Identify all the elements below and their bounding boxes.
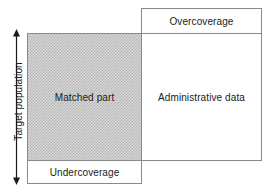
region-label-undercoverage: Undercoverage [50, 167, 120, 178]
region-label-overcoverage: Overcoverage [169, 16, 233, 27]
region-administrative-data: Administrative data [141, 33, 262, 161]
region-overcoverage: Overcoverage [141, 8, 262, 34]
region-matched-part: Matched part [27, 33, 142, 161]
region-label-administrative-data: Administrative data [158, 92, 245, 103]
region-undercoverage: Undercoverage [27, 160, 142, 184]
axis-label-target-population: Target population [13, 42, 24, 162]
coverage-diagram: Target population Overcoverage Administr… [0, 0, 274, 193]
region-label-matched-part: Matched part [54, 92, 116, 103]
